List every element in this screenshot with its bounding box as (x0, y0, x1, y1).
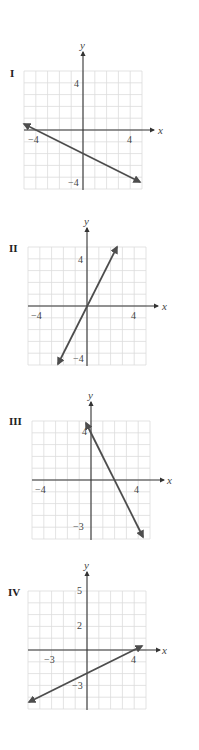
tick-label: 4 (127, 134, 132, 145)
graph-I: I x y 4 −4 4 −4 (10, 39, 163, 190)
tick-label: 2 (77, 620, 82, 631)
y-axis-label: y (83, 559, 89, 571)
graph-label: III (9, 415, 22, 427)
x-axis-label: x (157, 124, 163, 136)
tick-label: −4 (73, 353, 84, 364)
y-axis-label: y (79, 39, 85, 51)
tick-label: 4 (131, 310, 136, 321)
tick-label: 4 (74, 78, 79, 89)
graph-label: IV (8, 586, 20, 598)
graph-III: III x y 4 −4 4 −3 (9, 389, 172, 540)
tick-label: −3 (72, 680, 83, 691)
graph-label: I (10, 67, 14, 79)
graphs-canvas: I x y 4 −4 4 −4 II x y 4 −4 4 −4 III x y… (0, 0, 199, 750)
tick-label: −4 (31, 310, 42, 321)
tick-label: −3 (73, 521, 84, 532)
x-axis-label: x (161, 644, 167, 656)
y-axis-label: y (83, 215, 89, 227)
plotted-line (24, 124, 140, 182)
tick-label: −3 (44, 654, 55, 665)
y-axis-label: y (87, 389, 93, 401)
tick-label: 5 (77, 585, 82, 596)
x-axis-label: x (166, 474, 172, 486)
tick-label: −4 (35, 484, 46, 495)
tick-label: 4 (78, 254, 83, 265)
tick-label: 4 (82, 426, 87, 437)
tick-label: 4 (131, 654, 136, 665)
tick-label: −4 (68, 177, 79, 188)
tick-label: 4 (134, 484, 139, 495)
graph-II: II x y 4 −4 4 −4 (9, 215, 167, 366)
tick-label: −4 (28, 134, 39, 145)
graph-IV: IV x y 5 2 −3 4 −3 (8, 559, 167, 710)
x-axis-label: x (161, 300, 167, 312)
graph-label: II (9, 242, 18, 254)
